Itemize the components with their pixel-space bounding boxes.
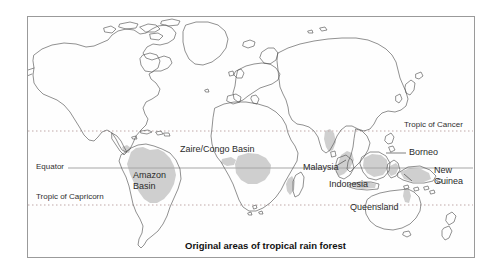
zaire-congo-basin-label: Zaire/Congo Basin	[180, 144, 255, 155]
new-guinea-label-line1: New	[434, 165, 452, 175]
borneo-label: Borneo	[409, 147, 438, 158]
amazon-basin-label: Amazon Basin	[133, 170, 185, 191]
malaysia-label: Malaysia	[303, 162, 339, 173]
tropic-of-capricorn-label: Tropic of Capricorn	[36, 192, 104, 201]
new-guinea-label: New Guinea	[434, 165, 474, 186]
equator-label: Equator	[36, 162, 64, 171]
figure-caption: Original areas of tropical rain forest	[185, 240, 346, 251]
rainforest-map-figure: Tropic of Cancer Equator Tropic of Capri…	[0, 0, 493, 278]
map-frame	[27, 16, 475, 258]
amazon-basin-label-line2: Basin	[133, 181, 156, 191]
indonesia-label: Indonesia	[329, 179, 368, 190]
tropic-of-cancer-label: Tropic of Cancer	[404, 120, 463, 129]
queensland-label: Queensland	[350, 202, 399, 213]
amazon-basin-label-line1: Amazon	[133, 170, 166, 180]
new-guinea-label-line2: Guinea	[434, 176, 463, 186]
